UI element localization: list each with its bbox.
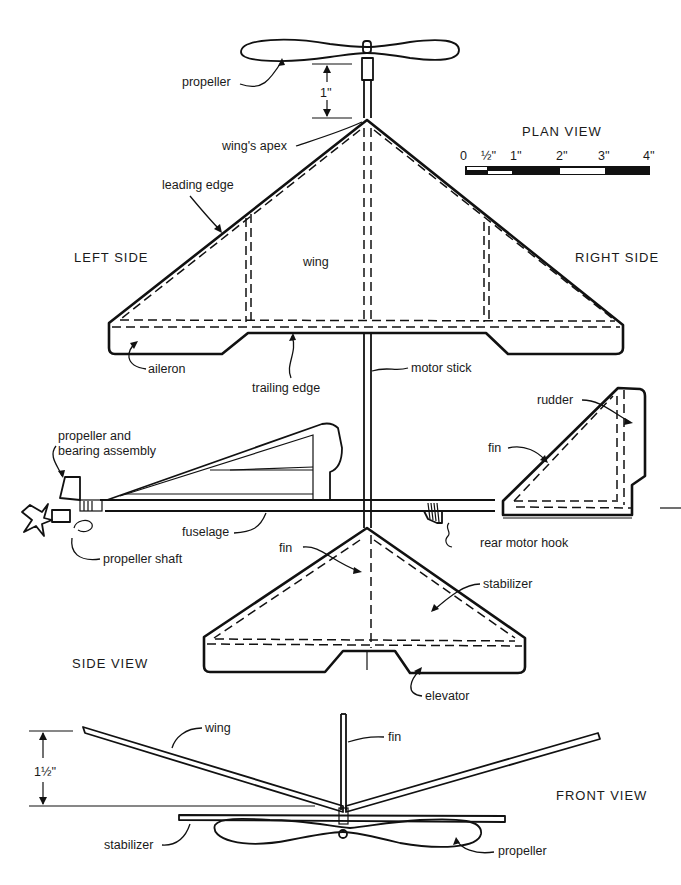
- dimension-label-front: 1½'': [34, 765, 56, 779]
- plan-view-title: PLAN VIEW: [522, 124, 602, 139]
- svg-text:4'': 4'': [643, 149, 655, 163]
- label-stabilizer-front: stabilizer: [104, 838, 153, 852]
- label-propeller-assembly-2: bearing assembly: [58, 444, 157, 458]
- label-aileron: aileron: [148, 362, 186, 376]
- side-view: propeller and bearing assembly fuselage …: [22, 388, 681, 671]
- side-view-title: SIDE VIEW: [72, 656, 148, 671]
- label-propeller-front: propeller: [498, 844, 547, 858]
- label-fin-side: fin: [488, 441, 501, 455]
- svg-text:3'': 3'': [598, 149, 610, 163]
- label-elevator: elevator: [425, 689, 469, 703]
- dimension-1-inch: 1'': [312, 64, 352, 118]
- label-propeller-assembly-1: propeller and: [58, 429, 131, 443]
- label-propeller-shaft: propeller shaft: [103, 552, 183, 566]
- label-wing-front: wing: [204, 721, 231, 735]
- svg-text:2'': 2'': [556, 149, 568, 163]
- label-wings-apex: wing's apex: [221, 139, 288, 153]
- label-fin-plan: fin: [279, 541, 292, 555]
- plan-view: 1'': [74, 40, 659, 673]
- label-stabilizer-plan: stabilizer: [483, 577, 532, 591]
- svg-text:0: 0: [460, 149, 467, 163]
- label-rear-motor-hook: rear motor hook: [480, 536, 569, 550]
- dimension-label: 1'': [320, 86, 332, 100]
- plan-stabilizer: [204, 528, 525, 673]
- front-view: 1½'' wing fin FRONT VIEW stabilizer prop…: [29, 714, 647, 858]
- plan-propeller: [241, 40, 459, 118]
- model-airplane-diagram: 1'': [0, 0, 681, 885]
- label-fuselage: fuselage: [182, 525, 229, 539]
- motor-stick: [364, 333, 371, 528]
- label-fin-front: fin: [388, 730, 401, 744]
- label-motor-stick: motor stick: [411, 361, 472, 375]
- plan-wing: [109, 120, 623, 354]
- label-left-side: LEFT SIDE: [74, 250, 149, 265]
- svg-text:1'': 1'': [510, 149, 522, 163]
- front-view-title: FRONT VIEW: [556, 788, 647, 803]
- svg-text:½'': ½'': [481, 149, 496, 163]
- label-propeller-top: propeller: [182, 75, 231, 89]
- label-wing: wing: [302, 255, 329, 269]
- label-right-side: RIGHT SIDE: [575, 250, 659, 265]
- label-trailing-edge: trailing edge: [252, 381, 320, 395]
- label-leading-edge: leading edge: [162, 178, 234, 192]
- scale-bar: 0 ½'' 1'' 2'' 3'' 4'': [460, 149, 655, 175]
- label-rudder: rudder: [537, 393, 573, 407]
